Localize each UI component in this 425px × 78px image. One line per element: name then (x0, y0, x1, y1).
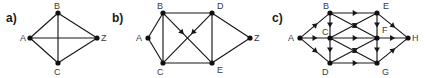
graph-figure: a)ABCZb)ABCDEZc)ABCDEFGH (0, 0, 425, 78)
node-a-A[interactable] (27, 35, 32, 40)
node-b-E[interactable] (209, 60, 214, 65)
node-c-B[interactable] (327, 10, 332, 15)
edge-a-A-B (32, 15, 56, 37)
edge-b-D-Z (214, 14, 248, 36)
edge-b-A-B (149, 15, 161, 36)
node-b-C[interactable] (160, 60, 165, 65)
graph-figure-svg: a)ABCZb)ABCDEZc)ABCDEFGH (0, 0, 425, 78)
node-label-c-H: H (412, 33, 419, 43)
node-label-c-C: C (322, 27, 329, 37)
arrowhead-c-D-G (353, 60, 358, 66)
node-label-c-D: D (322, 67, 329, 77)
edges-a (32, 14, 95, 61)
panel-label-b: b) (112, 11, 123, 25)
node-c-F[interactable] (374, 35, 379, 40)
edge-a-C-Z (60, 39, 95, 61)
arrowhead-c-F-H (390, 35, 395, 41)
panel-c: c)ABCDEFGH (272, 1, 419, 77)
node-label-b-B: B (157, 1, 163, 11)
panels-layer: a)ABCZb)ABCDEZc)ABCDEFGH (6, 1, 419, 77)
node-label-c-F: F (382, 25, 388, 35)
node-c-G[interactable] (374, 60, 379, 65)
nodes-b: ABCDEZ (136, 1, 260, 77)
node-a-C[interactable] (55, 60, 60, 65)
node-label-c-B: B (323, 1, 329, 11)
node-label-b-E: E (217, 65, 223, 75)
edge-b-A-C (149, 40, 161, 61)
arrowhead-c-C-D (327, 47, 333, 52)
node-label-c-A: A (288, 33, 294, 43)
node-label-c-G: G (382, 67, 389, 77)
panel-label-c: c) (272, 11, 283, 25)
node-c-A[interactable] (297, 35, 302, 40)
node-label-b-Z: Z (254, 33, 260, 43)
node-a-Z[interactable] (94, 35, 99, 40)
panel-b: b)ABCDEZ (112, 1, 260, 77)
arrowhead-c-C-F (353, 35, 358, 41)
node-label-b-D: D (217, 1, 224, 11)
node-c-E[interactable] (374, 10, 379, 15)
node-label-b-A: A (136, 33, 142, 43)
panel-label-a: a) (6, 11, 17, 25)
edges-b (149, 13, 247, 63)
panel-a: a)ABCZ (6, 1, 107, 77)
arrowhead-c-F-G (374, 47, 380, 52)
node-a-B[interactable] (55, 10, 60, 15)
node-label-a-C: C (54, 67, 61, 77)
node-label-a-A: A (20, 33, 26, 43)
node-label-a-Z: Z (101, 33, 107, 43)
node-c-D[interactable] (327, 60, 332, 65)
node-label-b-C: C (157, 67, 164, 77)
nodes-a: ABCZ (20, 1, 107, 77)
arrowhead-c-A-C (312, 35, 317, 41)
node-b-B[interactable] (160, 10, 165, 15)
node-label-a-B: B (54, 1, 60, 11)
arrowhead-c-B-E (353, 10, 358, 16)
edge-a-A-C (32, 40, 56, 62)
node-b-Z[interactable] (247, 35, 252, 40)
node-b-A[interactable] (145, 35, 150, 40)
edge-a-B-Z (60, 14, 95, 36)
arrowhead-c-E-F (374, 22, 380, 27)
node-c-H[interactable] (405, 35, 410, 40)
edge-b-E-Z (214, 39, 248, 61)
node-label-c-E: E (383, 1, 389, 11)
node-b-D[interactable] (209, 10, 214, 15)
edges-c (302, 10, 406, 66)
